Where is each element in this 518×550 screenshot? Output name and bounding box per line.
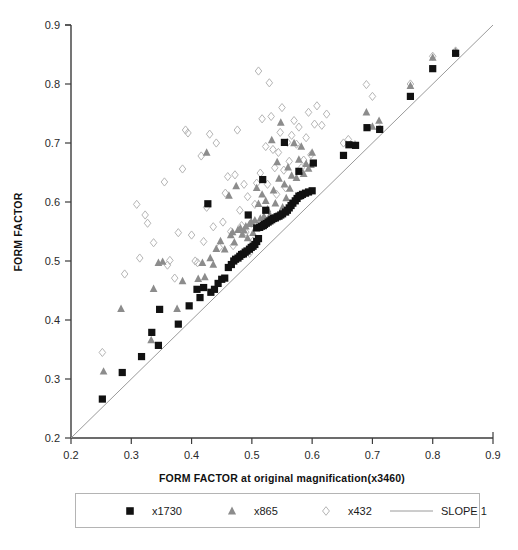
data-point-square [221, 275, 228, 282]
data-point-square [193, 286, 200, 293]
data-point-square [363, 124, 370, 131]
data-point-square [204, 200, 211, 207]
data-point-square [200, 284, 207, 291]
data-point-square [148, 329, 155, 336]
data-point-square [196, 294, 203, 301]
legend-marker-x1730 [126, 507, 134, 515]
x-tick-label: 0.5 [244, 449, 259, 461]
legend-label-x1730: x1730 [152, 505, 182, 517]
y-tick-label: 0.7 [45, 137, 60, 149]
data-point-square [186, 302, 193, 309]
data-point-square [138, 353, 145, 360]
x-tick-label: 0.8 [425, 449, 440, 461]
data-point-square [255, 235, 262, 242]
x-tick-label: 0.7 [365, 449, 380, 461]
data-point-square [345, 141, 352, 148]
data-point-square [245, 211, 252, 218]
data-point-square [310, 159, 317, 166]
legend-label-x865: x865 [254, 505, 278, 517]
data-point-square [99, 395, 106, 402]
x-tick-label: 0.2 [63, 449, 78, 461]
y-tick-label: 0.5 [45, 255, 60, 267]
x-tick-label: 0.3 [124, 449, 139, 461]
data-point-square [259, 176, 266, 183]
data-point-square [281, 139, 288, 146]
x-tick-label: 0.4 [184, 449, 199, 461]
data-point-square [119, 369, 126, 376]
chart-background [0, 0, 518, 550]
data-point-square [429, 65, 436, 72]
chart-canvas: 0.20.30.40.50.60.70.80.9 0.20.30.40.50.6… [0, 0, 518, 550]
x-tick-label: 0.9 [485, 449, 500, 461]
x-tick-label: 0.6 [304, 449, 319, 461]
data-point-square [452, 50, 459, 57]
data-point-square [352, 142, 359, 149]
data-point-square [407, 93, 414, 100]
y-tick-label: 0.2 [45, 432, 60, 444]
legend-label-x432: x432 [348, 505, 372, 517]
y-tick-label: 0.6 [45, 196, 60, 208]
data-point-square [340, 152, 347, 159]
data-point-square [155, 342, 162, 349]
data-point-square [309, 187, 316, 194]
data-point-square [376, 126, 383, 133]
data-point-square [295, 168, 302, 175]
legend-label-slope-1: SLOPE 1 [441, 505, 487, 517]
data-point-square [175, 321, 182, 328]
y-tick-label: 0.3 [45, 373, 60, 385]
data-point-square [262, 207, 269, 214]
y-axis-title: FORM FACTOR [12, 192, 24, 271]
data-point-square [156, 306, 163, 313]
y-tick-label: 0.4 [45, 314, 60, 326]
scatter-plot-figure: 0.20.30.40.50.60.70.80.9 0.20.30.40.50.6… [0, 0, 518, 550]
y-tick-label: 0.8 [45, 78, 60, 90]
x-axis-title: FORM FACTOR at original magnification(x3… [159, 472, 405, 484]
y-tick-label: 0.9 [45, 19, 60, 31]
